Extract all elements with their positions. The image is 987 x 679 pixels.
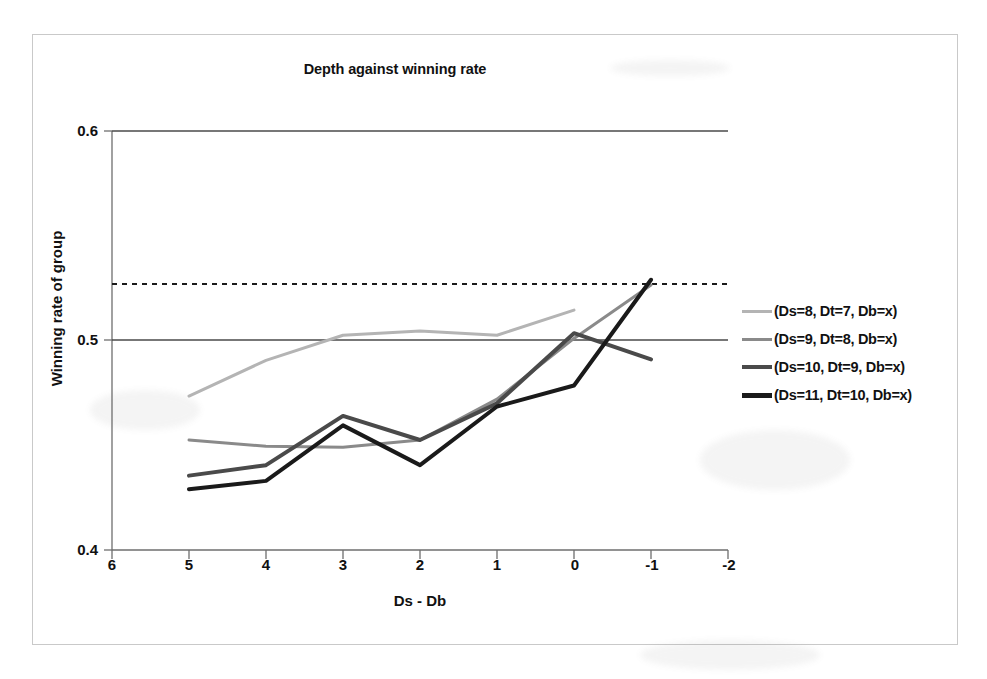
figure-canvas: Depth against winning rate Winning rate … xyxy=(0,0,987,679)
series-line-3 xyxy=(189,280,651,490)
y-tick-marks xyxy=(104,131,112,550)
legend-item-1[interactable]: (Ds=9, Dt=8, Db=x) xyxy=(742,325,972,353)
legend-label-1: (Ds=9, Dt=8, Db=x) xyxy=(774,331,897,347)
series-line-2 xyxy=(189,333,651,475)
series-group xyxy=(189,280,651,490)
legend-item-3[interactable]: (Ds=11, Dt=10, Db=x) xyxy=(742,381,972,409)
legend: (Ds=8, Dt=7, Db=x) (Ds=9, Dt=8, Db=x) (D… xyxy=(742,297,972,409)
legend-swatch-icon-0 xyxy=(742,310,772,313)
legend-label-3: (Ds=11, Dt=10, Db=x) xyxy=(774,387,912,403)
legend-item-2[interactable]: (Ds=10, Dt=9, Db=x) xyxy=(742,353,972,381)
series-line-1 xyxy=(189,285,651,447)
legend-label-2: (Ds=10, Dt=9, Db=x) xyxy=(774,359,905,375)
legend-swatch-icon-3 xyxy=(742,393,772,398)
legend-label-0: (Ds=8, Dt=7, Db=x) xyxy=(774,303,897,319)
x-tick-marks xyxy=(112,550,728,559)
legend-item-0[interactable]: (Ds=8, Dt=7, Db=x) xyxy=(742,297,972,325)
legend-swatch-icon-2 xyxy=(742,365,772,369)
legend-swatch-icon-1 xyxy=(742,338,772,341)
